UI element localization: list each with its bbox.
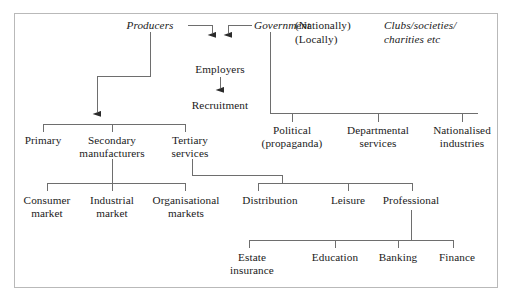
- node-consumer-line1: Consumer: [24, 194, 71, 207]
- node-secondary-line1: Secondary: [88, 134, 136, 147]
- node-education: Education: [312, 251, 358, 264]
- node-tertiary-line1: Tertiary: [172, 134, 208, 147]
- node-primary: Primary: [25, 134, 62, 147]
- node-professional: Professional: [383, 194, 440, 207]
- node-industrial-line2: market: [96, 207, 128, 220]
- node-nationalised-line2: industries: [440, 137, 485, 150]
- node-clubs-societies-line1: Clubs/societies/: [384, 19, 456, 32]
- node-recruitment: Recruitment: [192, 99, 248, 112]
- node-employers: Employers: [195, 63, 244, 76]
- node-tertiary-line2: services: [172, 147, 209, 160]
- node-nationalised-line1: Nationalised: [433, 124, 491, 137]
- node-political-line1: Political: [273, 124, 311, 137]
- node-finance: Finance: [439, 251, 475, 264]
- node-nationally: (Nationally): [295, 19, 351, 32]
- node-distribution: Distribution: [242, 194, 297, 207]
- node-estate-line2: insurance: [230, 264, 274, 277]
- node-locally: (Locally): [295, 33, 338, 46]
- node-organisational-line1: Organisational: [152, 194, 219, 207]
- node-political-line2: (propaganda): [262, 137, 323, 150]
- node-secondary-line2: manufacturers: [79, 147, 144, 160]
- node-departmental-line2: services: [360, 137, 397, 150]
- node-producers: Producers: [126, 19, 173, 32]
- node-consumer-line2: market: [31, 207, 63, 220]
- node-banking: Banking: [379, 251, 418, 264]
- node-leisure: Leisure: [331, 194, 365, 207]
- diagram-page: Producers Government (Nationally) (Local…: [0, 0, 513, 306]
- node-departmental-line1: Departmental: [347, 124, 409, 137]
- node-clubs-societies-line2: charities etc: [384, 33, 440, 46]
- node-organisational-line2: markets: [168, 207, 204, 220]
- node-estate-line1: Estate: [238, 251, 266, 264]
- node-industrial-line1: Industrial: [90, 194, 134, 207]
